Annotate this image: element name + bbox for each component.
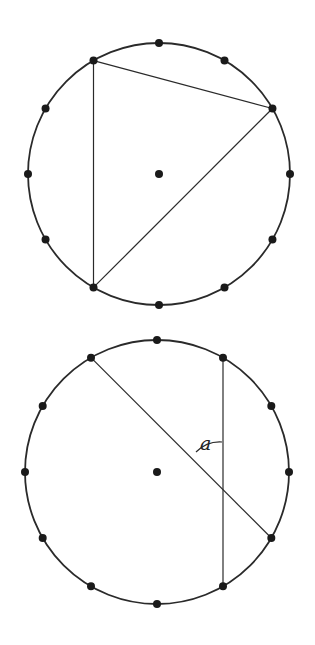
diagram-intersecting-chords [21, 336, 293, 608]
point-dot [90, 283, 98, 291]
point-dot [221, 283, 229, 291]
point-dot [87, 354, 95, 362]
point-dot [268, 105, 276, 113]
point-dot [42, 236, 50, 244]
point-dot [267, 402, 275, 410]
chord [91, 358, 271, 538]
point-dot [90, 57, 98, 65]
point-dot [268, 236, 276, 244]
point-dot [267, 534, 275, 542]
center-dot [153, 468, 161, 476]
point-dot [42, 105, 50, 113]
point-dot [221, 57, 229, 65]
point-dot [219, 354, 227, 362]
chord [94, 109, 273, 288]
angle-label: a [200, 432, 211, 454]
point-dot [155, 301, 163, 309]
point-dot [286, 170, 294, 178]
diagram-inscribed-triangle [24, 39, 294, 309]
point-dot [21, 468, 29, 476]
point-dot [155, 39, 163, 47]
chord [94, 61, 273, 109]
point-dot [87, 582, 95, 590]
point-dot [219, 582, 227, 590]
point-dot [153, 600, 161, 608]
point-dot [285, 468, 293, 476]
point-dot [39, 402, 47, 410]
point-dot [153, 336, 161, 344]
geometry-figure: a [0, 0, 315, 645]
point-dot [39, 534, 47, 542]
point-dot [24, 170, 32, 178]
center-dot [155, 170, 163, 178]
